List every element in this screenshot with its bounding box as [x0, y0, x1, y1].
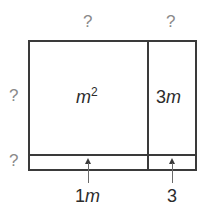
left-border: [28, 40, 30, 171]
region-3m: 3m: [156, 88, 181, 106]
1m-coefficient: 1: [75, 186, 85, 206]
top-row-height-unknown: ?: [9, 87, 18, 104]
horizontal-divider: [28, 154, 197, 156]
vertical-divider: [147, 40, 149, 171]
top-border: [28, 40, 197, 42]
region-1m-label: 1m: [75, 187, 100, 205]
3m-variable: m: [166, 87, 181, 107]
region-3-label: 3: [167, 187, 177, 205]
arrow-shaft-left: [88, 163, 89, 183]
right-border: [195, 40, 197, 171]
top-right-width-unknown: ?: [166, 13, 175, 30]
3m-coefficient: 3: [156, 87, 166, 107]
m-squared-base: m: [76, 87, 91, 107]
1m-variable: m: [85, 186, 100, 206]
region-m-squared: m2: [76, 88, 98, 106]
bottom-row-height-unknown: ?: [9, 152, 18, 169]
arrow-shaft-right: [172, 163, 173, 183]
m-squared-exponent: 2: [91, 85, 98, 99]
top-left-width-unknown: ?: [83, 13, 92, 30]
